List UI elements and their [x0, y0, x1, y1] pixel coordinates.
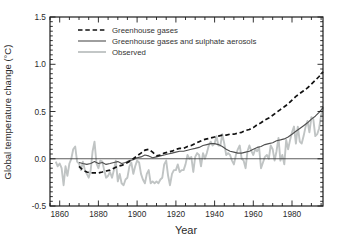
x-tick-label: 1980: [283, 209, 302, 219]
x-tick-label: 1880: [89, 209, 108, 219]
y-tick-label: 0.0: [34, 154, 46, 164]
legend-item: Greenhouse gases and sulphate aerosols: [78, 37, 256, 46]
legend-label: Observed: [112, 48, 146, 57]
legend: Greenhouse gasesGreenhouse gases and sul…: [78, 26, 256, 57]
y-tick-label: 1.0: [34, 59, 46, 69]
x-axis-title: Year: [175, 224, 198, 236]
legend-label: Greenhouse gases and sulphate aerosols: [112, 37, 256, 46]
ghg-aerosols-line: [79, 108, 323, 165]
y-tick-label: 1.5: [34, 12, 46, 22]
legend-item: Greenhouse gases: [78, 26, 178, 35]
x-tick-label: 1920: [167, 209, 186, 219]
legend-label: Greenhouse gases: [112, 26, 178, 35]
legend-item: Observed: [78, 48, 146, 57]
ghg-line: [79, 72, 323, 173]
x-tick-label: 1940: [205, 209, 224, 219]
x-tick-label: 1900: [128, 209, 147, 219]
x-tick-label: 1860: [50, 209, 69, 219]
chart-figure: 1860188019001920194019601980-0.50.00.51.…: [0, 0, 343, 244]
y-tick-label: 0.5: [34, 107, 46, 117]
y-axis-title: Global temperature change (°C): [2, 45, 13, 180]
x-tick-label: 1960: [244, 209, 263, 219]
y-tick-label: -0.5: [32, 201, 47, 211]
temperature-chart: 1860188019001920194019601980-0.50.00.51.…: [0, 0, 343, 244]
